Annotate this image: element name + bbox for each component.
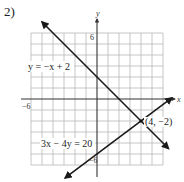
x-axis-label: x — [176, 95, 181, 104]
y-tick-label: 6 — [90, 33, 94, 42]
y-axis-label: y — [95, 9, 100, 18]
series-line-1 — [42, 22, 169, 149]
x-tick-label: −6 — [22, 102, 31, 111]
coordinate-graph: xy −66−6 y = −x + 23x − 4y = 20(4, −2) — [0, 0, 184, 182]
point-label: (4, −2) — [145, 116, 172, 128]
line-label-2: 3x − 4y = 20 — [41, 138, 92, 149]
intersection-point — [139, 119, 142, 122]
line-label-1: y = −x + 2 — [28, 61, 70, 72]
